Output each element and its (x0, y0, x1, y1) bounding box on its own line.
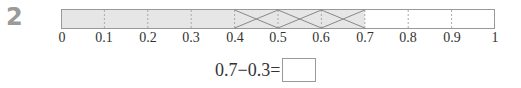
tick-label: 0.2 (139, 30, 157, 46)
tick-label: 0.6 (312, 30, 330, 46)
tick-label: 0.3 (182, 30, 200, 46)
tape-diagram (61, 9, 495, 29)
tick-label: 0.4 (226, 30, 244, 46)
tape-diagram-graphic (61, 9, 495, 29)
tick-label: 0.7 (356, 30, 374, 46)
tick-label: 0.9 (443, 30, 461, 46)
answer-box[interactable] (282, 58, 316, 82)
tick-label: 0.8 (399, 30, 417, 46)
equation-expression: 0.7−0.3= (215, 60, 280, 81)
question-number: 2 (6, 2, 28, 32)
shaded-region (62, 10, 365, 29)
tick-label: 0.5 (269, 30, 287, 46)
tick-label: 0.1 (95, 30, 113, 46)
tick-label: 1 (492, 30, 499, 46)
equation: 0.7−0.3= (215, 58, 316, 82)
tick-labels: 0 0.1 0.2 0.3 0.4 0.5 0.6 0.7 0.8 0.9 1 (0, 30, 521, 50)
tick-label: 0 (59, 30, 66, 46)
